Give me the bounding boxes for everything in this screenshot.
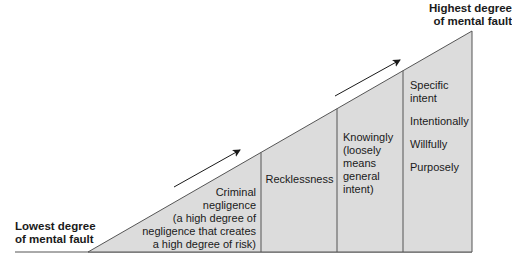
bottom-label: Lowest degree of mental fault xyxy=(15,220,115,246)
section-text: means xyxy=(343,157,403,170)
bottom-label-line1: Lowest degree xyxy=(15,220,115,233)
section-text: intent xyxy=(410,92,472,105)
spacer xyxy=(410,128,472,138)
section-text: (loosely xyxy=(343,144,403,157)
section-criminal-negligence: Criminal negligence (a high degree of ne… xyxy=(140,186,256,251)
spacer xyxy=(410,105,472,115)
section-text: (a high degree of xyxy=(140,212,256,225)
spacer xyxy=(410,151,472,161)
section-text: general xyxy=(343,170,403,183)
top-label-line2: of mental fault xyxy=(412,15,512,28)
section-text: Recklessness xyxy=(262,173,337,186)
section-text: Specific xyxy=(410,79,472,92)
section-text: Knowingly xyxy=(343,131,403,144)
section-text: Intentionally xyxy=(410,115,472,128)
section-text: Criminal xyxy=(140,186,256,199)
section-text: Willfully xyxy=(410,138,472,151)
section-text: Purposely xyxy=(410,161,472,174)
top-label: Highest degree of mental fault xyxy=(412,2,512,28)
section-text: negligence that creates xyxy=(140,225,256,238)
section-recklessness: Recklessness xyxy=(262,173,337,186)
section-text: negligence xyxy=(140,199,256,212)
section-text: a high degree of risk) xyxy=(140,238,256,251)
section-specific-intent: Specific intent Intentionally Willfully … xyxy=(410,79,472,174)
top-label-line1: Highest degree xyxy=(412,2,512,15)
bottom-label-line2: of mental fault xyxy=(15,233,115,246)
section-knowingly: Knowingly (loosely means general intent) xyxy=(343,131,403,196)
section-text: intent) xyxy=(343,183,403,196)
